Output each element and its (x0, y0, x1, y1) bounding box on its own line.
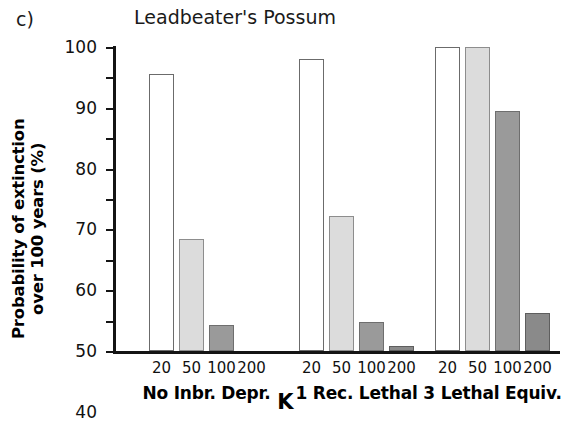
x-tick-label: 50 (468, 359, 487, 377)
bar (465, 47, 490, 351)
y-axis-title: Probability of extinction over 100 years… (10, 79, 48, 379)
y-tick-mark: 90 (106, 77, 113, 79)
x-tick-label: 100 (357, 359, 386, 377)
y-tick-label: 70 (75, 219, 97, 239)
bar (435, 47, 460, 351)
caption-sliver (0, 436, 571, 443)
y-axis-title-line-2: over 100 years (%) (29, 79, 48, 379)
x-tick-label: 100 (493, 359, 522, 377)
x-tick-label: 100 (207, 359, 236, 377)
x-tick-label: 20 (302, 359, 321, 377)
bar (299, 59, 324, 351)
x-tick-label: 50 (182, 359, 201, 377)
x-tick-label: 200 (523, 359, 552, 377)
bar (389, 346, 414, 351)
panel-label: c) (16, 8, 34, 30)
y-tick-label: 80 (75, 158, 97, 178)
y-tick-label: 100 (65, 37, 97, 57)
y-tick-mark: 20 (106, 290, 113, 292)
y-tick-mark: 80 (106, 108, 113, 110)
x-tick-label: 200 (387, 359, 416, 377)
x-axis-title: K (0, 390, 571, 414)
y-tick-mark: 60 (106, 169, 113, 171)
plot-area: 0102030405060708090100 2050100200No Inbr… (113, 47, 560, 351)
y-axis-line (113, 46, 116, 352)
y-tick-label: 60 (75, 280, 97, 300)
chart-title: Leadbeater's Possum (110, 6, 360, 28)
bar (329, 216, 354, 351)
y-tick-mark: 100 (106, 47, 113, 49)
y-tick-mark: 70 (106, 138, 113, 140)
y-tick-label: 90 (75, 97, 97, 117)
x-tick-label: 20 (438, 359, 457, 377)
x-tick-label: 20 (152, 359, 171, 377)
y-tick-mark: 0 (106, 351, 113, 353)
x-tick-label: 200 (237, 359, 266, 377)
bar (525, 313, 550, 351)
y-tick-mark: 50 (106, 199, 113, 201)
y-tick-mark: 40 (106, 229, 113, 231)
x-axis-line (113, 351, 560, 354)
bar (495, 111, 520, 351)
bar (359, 322, 384, 351)
x-tick-label: 50 (332, 359, 351, 377)
bar (209, 325, 234, 351)
y-tick-mark: 10 (106, 321, 113, 323)
y-tick-label: 50 (75, 341, 97, 361)
bar (179, 239, 204, 351)
y-axis-title-line-1: Probability of extinction (10, 79, 29, 379)
bar (149, 74, 174, 351)
y-tick-mark: 30 (106, 260, 113, 262)
